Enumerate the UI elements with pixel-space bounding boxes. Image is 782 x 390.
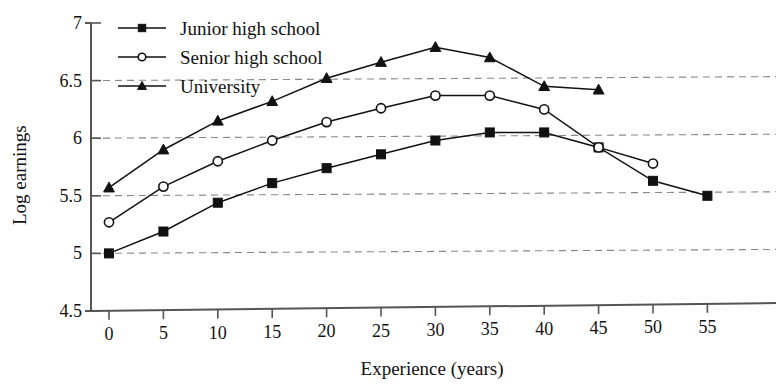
datapoint-2-3 [267,96,278,106]
data-series [104,42,712,258]
datapoint-2-0 [104,182,115,192]
legend-marker-filled-square [138,24,145,31]
x-axis-line [91,303,776,311]
datapoint-2-8 [539,81,550,91]
datapoint-0-1 [159,227,168,236]
y-axis-ticks: 76.565.554.5 [60,13,102,321]
x-tick-label-15: 15 [263,322,281,342]
datapoint-0-7 [485,128,494,137]
datapoint-0-3 [268,179,277,188]
series-line-0 [109,132,707,253]
gridline-5 [91,249,776,253]
datapoint-1-3 [268,136,277,145]
x-tick-label-30: 30 [426,320,444,340]
datapoint-1-0 [104,218,113,227]
x-tick-label-55: 55 [698,317,716,337]
datapoint-1-6 [431,91,440,100]
datapoint-0-8 [540,128,549,137]
datapoint-1-7 [485,91,494,100]
x-tick-label-0: 0 [105,324,114,344]
datapoint-1-2 [213,157,222,166]
datapoint-1-9 [594,143,603,152]
y-tick-label-6: 6 [73,128,82,148]
y-axis-title: Log earnings [9,125,30,225]
x-tick-label-10: 10 [209,323,227,343]
chart-plot-area: 76.565.554.5 0510152025303540455055 Juni… [0,0,782,390]
y-tick-label-7: 7 [73,13,82,33]
series-line-2 [109,47,599,188]
datapoint-0-2 [213,198,222,207]
datapoint-0-4 [322,164,331,173]
datapoint-0-5 [377,150,386,159]
x-tick-label-40: 40 [535,319,553,339]
y-tick-label-5.5: 5.5 [60,186,83,206]
y-tick-label-4.5: 4.5 [60,301,83,321]
gridline-5.5 [91,192,776,196]
log-earnings-experience-chart: 76.565.554.5 0510152025303540455055 Juni… [0,0,782,390]
x-tick-label-5: 5 [159,323,168,343]
x-tick-label-50: 50 [644,317,662,337]
legend-marker-open-circle [138,53,146,61]
datapoint-1-1 [159,182,168,191]
datapoint-1-10 [648,159,657,168]
x-tick-label-35: 35 [481,319,499,339]
legend-label-1: Senior high school [180,47,323,68]
datapoint-1-8 [540,105,549,114]
datapoint-1-5 [376,104,385,113]
datapoint-2-1 [158,144,169,154]
datapoint-2-6 [430,42,441,52]
legend-label-2: University [180,76,261,97]
gridlines [91,77,776,254]
datapoint-0-10 [649,176,658,185]
datapoint-0-0 [105,249,114,258]
datapoint-1-4 [322,117,331,126]
y-tick-label-5: 5 [73,243,82,263]
datapoint-0-6 [431,136,440,145]
chart-legend: Junior high schoolSenior high schoolUniv… [118,18,323,97]
datapoint-0-11 [703,191,712,200]
y-tick-label-6.5: 6.5 [60,71,83,91]
x-tick-label-25: 25 [372,321,390,341]
x-axis-title: Experience (years) [361,358,504,380]
x-tick-label-20: 20 [318,321,336,341]
x-tick-label-45: 45 [590,318,608,338]
legend-label-0: Junior high school [180,18,320,39]
